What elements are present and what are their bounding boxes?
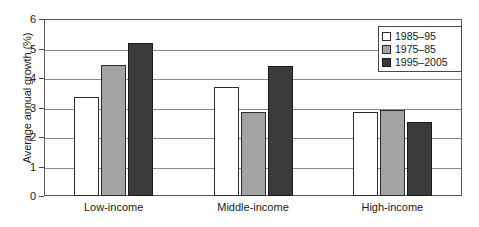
x-axis-group-label: Middle-income xyxy=(217,202,289,213)
legend-swatch-icon xyxy=(382,32,391,41)
bar xyxy=(241,112,266,196)
bar-chart: Average annual growth (%) 0123456 Low-in… xyxy=(0,0,479,227)
bar xyxy=(214,87,239,196)
bar xyxy=(380,110,405,196)
legend-item-label: 1975–85 xyxy=(395,44,436,55)
y-axis-tick-label: 5 xyxy=(22,43,36,54)
y-axis-tick-label: 0 xyxy=(22,191,36,202)
y-axis-tick-mark xyxy=(39,196,44,197)
bar xyxy=(128,43,153,196)
x-axis-group-label: High-income xyxy=(361,202,423,213)
legend-item-label: 1995–2005 xyxy=(395,57,448,68)
bar xyxy=(101,65,126,196)
legend-item: 1975–85 xyxy=(382,43,458,55)
legend-swatch-icon xyxy=(382,45,391,54)
bar xyxy=(268,66,293,196)
y-axis-tick-label: 6 xyxy=(22,14,36,25)
y-axis-tick-label: 3 xyxy=(22,102,36,113)
y-axis-tick-label: 2 xyxy=(22,132,36,143)
y-axis-tick-label: 4 xyxy=(22,73,36,84)
bar xyxy=(74,97,99,196)
legend: 1985–95 1975–85 1995–2005 xyxy=(378,26,462,72)
legend-item: 1985–95 xyxy=(382,30,458,42)
legend-item-label: 1985–95 xyxy=(395,31,436,42)
legend-item: 1995–2005 xyxy=(382,56,458,68)
bar xyxy=(353,112,378,196)
y-axis-tick-label: 1 xyxy=(22,161,36,172)
bar xyxy=(407,122,432,196)
x-axis-group-label: Low-income xyxy=(84,202,143,213)
legend-swatch-icon xyxy=(382,58,391,67)
